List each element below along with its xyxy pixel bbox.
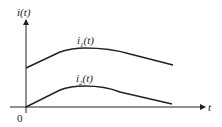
origin-label: 0 <box>17 112 23 124</box>
label-tail: (t) <box>83 72 93 84</box>
curve-i1-label: i1(t) <box>77 34 94 49</box>
diagram: i(t) t 0 i1(t) i2(t) <box>0 0 222 127</box>
y-axis-label: i(t) <box>17 6 30 18</box>
curve-i2-label: i2(t) <box>76 72 93 87</box>
curve-i2 <box>26 86 172 107</box>
curve-i1 <box>26 48 173 68</box>
x-axis-label: t <box>208 101 211 113</box>
plot-svg <box>0 0 222 127</box>
label-tail: (t) <box>84 34 94 46</box>
